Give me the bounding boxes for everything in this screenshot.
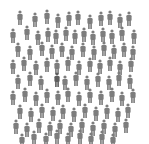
person-icon — [106, 75, 111, 90]
person-icon — [111, 44, 116, 59]
person-icon — [13, 119, 18, 134]
person-icon — [90, 30, 95, 45]
person-icon — [32, 12, 37, 27]
person-icon — [126, 11, 131, 26]
person-icon — [107, 56, 112, 71]
person-icon — [65, 56, 70, 71]
person-icon — [45, 27, 50, 42]
person-icon — [31, 130, 36, 144]
person-icon — [72, 29, 77, 44]
person-icon — [10, 28, 15, 43]
person-icon — [75, 10, 80, 25]
person-icon — [24, 25, 29, 40]
person-icon — [101, 41, 106, 56]
person-icon — [33, 60, 38, 75]
person-icon — [36, 118, 41, 133]
person-icon — [115, 107, 120, 122]
person-icon — [76, 91, 81, 106]
person-icon — [54, 72, 59, 87]
person-icon — [95, 72, 100, 87]
crowd-image — [0, 0, 149, 144]
person-icon — [82, 103, 87, 118]
person-icon — [127, 74, 132, 89]
person-icon — [35, 30, 40, 45]
person-icon — [131, 29, 136, 44]
person-icon — [123, 118, 128, 133]
person-icon — [109, 29, 114, 44]
person-icon — [17, 104, 22, 119]
person-icon — [71, 107, 76, 122]
person-icon — [87, 88, 92, 103]
person-icon — [54, 59, 59, 74]
person-icon — [38, 75, 43, 90]
person-icon — [24, 122, 29, 137]
person-icon — [49, 44, 54, 59]
person-icon — [55, 90, 60, 105]
person-icon — [27, 45, 32, 60]
person-icon — [22, 87, 27, 102]
person-icon — [128, 57, 133, 72]
person-icon — [100, 27, 105, 42]
person-icon — [80, 42, 85, 57]
person-icon — [81, 27, 86, 42]
person-icon — [66, 11, 71, 26]
person-icon — [33, 91, 38, 106]
person-icon — [98, 11, 103, 26]
person-icon — [87, 14, 92, 29]
person-icon — [63, 26, 68, 41]
person-icon — [27, 71, 32, 86]
person-icon — [110, 133, 115, 144]
person-icon — [88, 132, 93, 144]
person-icon — [119, 91, 124, 106]
person-icon — [69, 45, 74, 60]
person-icon — [84, 75, 89, 90]
person-icon — [117, 13, 122, 28]
person-icon — [121, 42, 126, 57]
person-icon — [10, 90, 15, 105]
person-icon — [53, 29, 58, 44]
person-icon — [55, 13, 60, 28]
person-icon — [104, 104, 109, 119]
person-icon — [17, 10, 22, 25]
person-icon — [47, 121, 52, 136]
person-icon — [98, 90, 103, 105]
person-icon — [93, 106, 98, 121]
person-icon — [119, 26, 124, 41]
person-icon — [62, 75, 67, 90]
person-icon — [97, 59, 102, 74]
person-icon — [43, 132, 48, 144]
person-icon — [87, 57, 92, 72]
person-icon — [44, 9, 49, 24]
person-icon — [44, 57, 49, 72]
person-icon — [10, 59, 15, 74]
person-icon — [125, 103, 130, 118]
person-icon — [15, 42, 20, 57]
person-icon — [107, 10, 112, 25]
person-icon — [19, 133, 24, 144]
person-icon — [44, 88, 49, 103]
person-icon — [50, 106, 55, 121]
person-icon — [91, 45, 96, 60]
person-icon — [21, 56, 26, 71]
person-icon — [130, 88, 135, 103]
person-icon — [39, 103, 44, 118]
person-icon — [15, 74, 20, 89]
person-icon — [99, 130, 104, 144]
person-icon — [28, 107, 33, 122]
person-icon — [59, 42, 64, 57]
person-icon — [77, 129, 82, 144]
person-icon — [60, 104, 65, 119]
person-icon — [39, 41, 44, 56]
